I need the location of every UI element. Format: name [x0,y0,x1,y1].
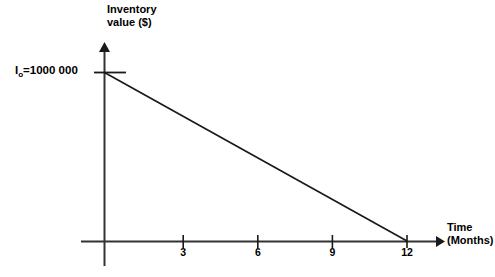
x-axis-title: Time (Months) [447,221,493,247]
data-series-line [105,73,408,242]
x-axis-title-line1: Time [447,221,493,234]
x-axis-arrowhead [436,236,445,247]
initial-value-amount: =1000 000 [23,64,78,76]
y-axis-title-line2: value ($) [107,16,157,29]
y-axis-title-line1: Inventory [107,3,157,16]
y-axis-title: Inventory value ($) [107,3,157,29]
x-tick-label-9: 9 [329,246,335,258]
x-axis-title-line2: (Months) [447,234,493,247]
y-axis-arrowhead [99,42,110,52]
initial-inventory-value-label: Io=1000 000 [15,64,78,79]
x-tick-label-6: 6 [255,246,261,258]
inventory-depreciation-chart: Inventory value ($) Time (Months) Io=100… [0,0,495,277]
x-tick-label-12: 12 [401,246,413,258]
x-tick-label-3: 3 [180,246,186,258]
chart-plot-area [0,0,495,277]
